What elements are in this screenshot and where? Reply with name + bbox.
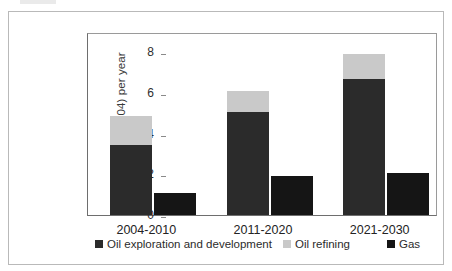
- bar-group: [205, 34, 322, 215]
- x-axis-label: 2021-2030: [321, 223, 438, 237]
- legend-swatch-icon: [387, 240, 395, 248]
- y-tick-mark: [161, 217, 166, 218]
- legend-label: Oil exploration and development: [107, 238, 272, 250]
- bar-gas: [154, 193, 196, 215]
- bar-segment: [227, 91, 269, 112]
- bar-stacked-oil: [110, 116, 152, 215]
- bar-segment: [110, 145, 152, 215]
- legend-item[interactable]: Oil exploration and development: [95, 238, 272, 250]
- x-axis-label: 2011-2020: [205, 223, 322, 237]
- bar-group: [321, 34, 438, 215]
- bar-gas: [271, 176, 313, 215]
- legend-item[interactable]: Oil refining: [283, 238, 350, 250]
- legend-label: Oil refining: [295, 238, 350, 250]
- plot-area: billion dollars (2004) per year 02468 20…: [87, 33, 437, 216]
- bar-stacked-oil: [343, 54, 385, 215]
- bar-stacked-oil: [227, 91, 269, 215]
- bar-gas: [387, 173, 429, 215]
- bar-group: [88, 34, 205, 215]
- figure-border: billion dollars (2004) per year 02468 20…: [8, 11, 444, 265]
- legend-item[interactable]: Gas: [387, 238, 420, 250]
- chart-legend: Oil exploration and developmentOil refin…: [87, 238, 437, 258]
- legend-label: Gas: [399, 238, 420, 250]
- bar-segment: [110, 116, 152, 144]
- bar-segment: [343, 54, 385, 78]
- chart-figure: billion dollars (2004) per year 02468 20…: [0, 0, 452, 271]
- caption-fragment: [20, 0, 56, 4]
- bar-segment: [343, 79, 385, 215]
- bar-segment: [227, 112, 269, 215]
- legend-swatch-icon: [283, 240, 291, 248]
- x-axis-label: 2004-2010: [88, 223, 205, 237]
- legend-swatch-icon: [95, 240, 103, 248]
